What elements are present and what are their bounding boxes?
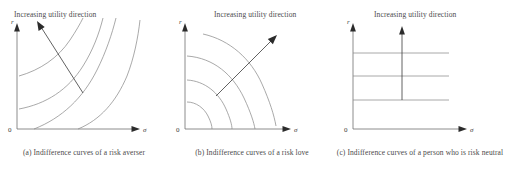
y-axis-label-b: r	[179, 18, 182, 26]
increasing-utility-arrow-a	[37, 21, 83, 93]
plot-area-a: r σ 0	[0, 14, 168, 146]
axes-a	[14, 23, 140, 132]
panel-risk-love: Increasing utility direction r σ 0	[168, 0, 336, 171]
y-axis-label-a: r	[11, 18, 14, 26]
indifference-curves-b	[187, 34, 276, 129]
y-axis-label-c: r	[347, 18, 350, 26]
caption-b: (b) Indifference curves of a risk love	[168, 148, 336, 157]
plot-area-b: r σ 0	[168, 14, 336, 146]
origin-label-b: 0	[176, 126, 180, 134]
x-axis-label-c: σ	[470, 126, 474, 134]
x-axis-label-b: σ	[294, 126, 298, 134]
axes-c	[350, 23, 467, 132]
panel-risk-averser: Increasing utility direction r σ 0	[0, 0, 168, 171]
indifference-curves-c	[353, 53, 449, 100]
caption-a: (a) Indifference curves of a risk averse…	[0, 148, 168, 157]
panel-risk-neutral: Increasing utility direction r σ 0	[336, 0, 504, 171]
indifference-curves-a	[19, 18, 140, 129]
increasing-utility-arrow-b	[216, 35, 277, 96]
plot-area-c: r σ 0	[336, 14, 504, 146]
origin-label-c: 0	[344, 126, 348, 134]
caption-c: (c) Indifference curves of a person who …	[336, 148, 504, 157]
increasing-utility-arrow-c	[399, 26, 405, 100]
origin-label-a: 0	[8, 126, 12, 134]
indifference-curves-figure: Increasing utility direction r σ 0	[0, 0, 505, 171]
x-axis-label-a: σ	[143, 126, 147, 134]
